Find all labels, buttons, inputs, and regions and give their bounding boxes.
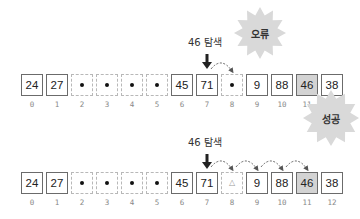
error-burst-badge: 오류: [228, 6, 292, 60]
success-burst-badge: 성공: [302, 89, 360, 147]
result-label: 성공: [302, 89, 360, 147]
result-label: 오류: [228, 6, 292, 60]
success-scenario: 2402712345456717△89988104611381246 탐색성공: [0, 99, 356, 209]
